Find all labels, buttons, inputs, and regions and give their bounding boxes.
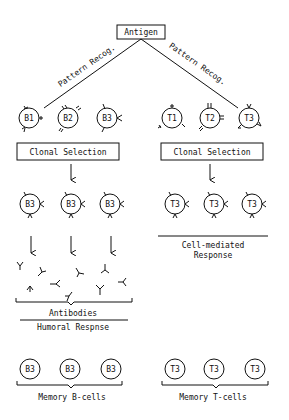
memory-b3: B3 (65, 365, 75, 374)
t-clones-row: T3 T3 T3 (165, 192, 266, 218)
response-label: Response (194, 251, 233, 260)
memory-b-brace (17, 381, 122, 388)
clone-b3: B3 (66, 200, 76, 209)
antibodies-cluster (17, 262, 126, 301)
memory-t-cells-row: T3 T3 T3 (165, 359, 265, 379)
memory-t-label: Memory T-cells (179, 393, 247, 402)
edge-label-left: Pattern Recog. (56, 43, 116, 89)
clone-t3: T3 (247, 200, 257, 209)
b-cells-row: B1 B2 B3 (19, 104, 122, 132)
memory-t3: T3 (170, 365, 180, 374)
memory-b3: B3 (106, 365, 116, 374)
clone-t3: T3 (170, 200, 180, 209)
cell-b1: B1 (24, 114, 34, 123)
b-clonal-selection-label: Clonal Selection (29, 148, 106, 157)
antibodies-brace (16, 298, 132, 305)
antigen-label: Antigen (124, 28, 158, 37)
memory-b-cells-row: B3 B3 B3 (20, 359, 121, 379)
memory-t-brace (162, 381, 268, 388)
antigen-node: Antigen (117, 25, 165, 39)
immune-response-diagram: Antigen Pattern Recog. Pattern Recog. B1… (0, 0, 289, 420)
t-clonal-selection-label: Clonal Selection (173, 148, 250, 157)
cell-mediated-label: Cell-mediated (182, 241, 245, 250)
b-clones-row: B3 B3 B3 (20, 192, 124, 218)
humoral-response-label: Humoral Respnse (37, 323, 109, 332)
cell-t3: T3 (244, 114, 254, 123)
antibodies-label: Antibodies (49, 309, 97, 318)
clone-t3: T3 (209, 200, 219, 209)
memory-t3: T3 (250, 365, 260, 374)
cell-b3: B3 (102, 114, 112, 123)
clone-b3: B3 (105, 200, 115, 209)
cell-t1: T1 (167, 114, 177, 123)
edge-right (141, 39, 238, 108)
memory-t3: T3 (209, 365, 219, 374)
edge-left (44, 39, 141, 108)
clone-b3: B3 (25, 200, 35, 209)
cell-t2: T2 (205, 114, 215, 123)
memory-b-label: Memory B-cells (38, 393, 106, 402)
cell-b2: B2 (63, 114, 73, 123)
t-cells-row: T1 T2 T3 (158, 103, 261, 131)
memory-b3: B3 (25, 365, 35, 374)
